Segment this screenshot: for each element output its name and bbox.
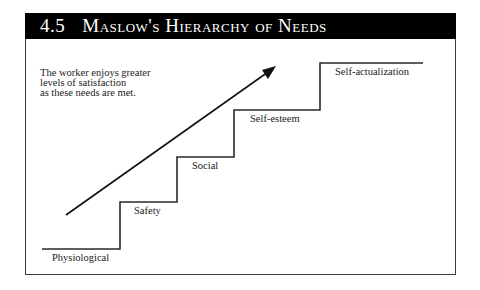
step-label-physiological: Physiological xyxy=(52,252,109,263)
arrow-shaft xyxy=(66,72,268,215)
step-label-self-actualization: Self-actualization xyxy=(335,66,409,77)
arrow-head-icon xyxy=(262,66,276,79)
step-label-self-esteem: Self-esteem xyxy=(250,113,300,124)
step-label-safety: Safety xyxy=(134,205,161,216)
staircase-diagram xyxy=(0,0,480,290)
step-label-social: Social xyxy=(192,160,218,171)
staircase-line xyxy=(42,63,423,249)
